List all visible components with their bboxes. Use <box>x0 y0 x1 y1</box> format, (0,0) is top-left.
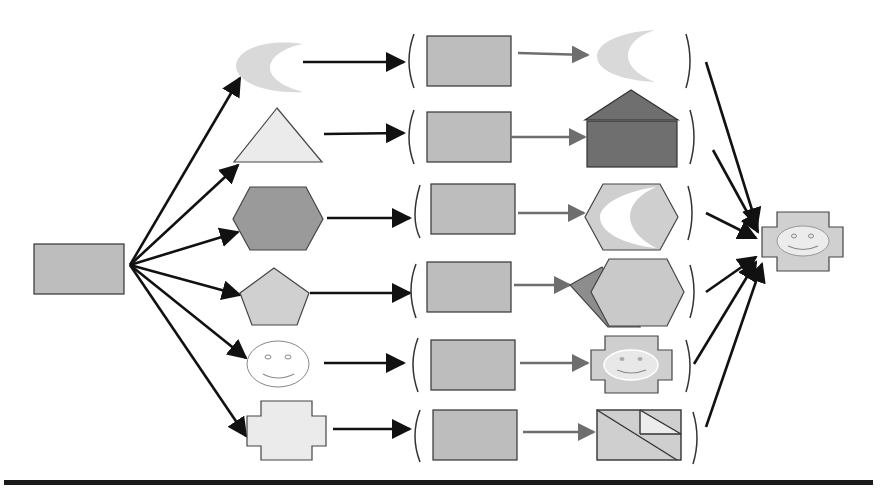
row-triangle <box>234 90 694 167</box>
hexagon-input <box>233 187 323 250</box>
left-bracket <box>409 34 414 88</box>
middle-rectangle <box>427 112 511 162</box>
left-bracket <box>411 264 416 318</box>
cross-smiley-eye-right <box>638 357 643 361</box>
right-bracket <box>693 412 697 464</box>
middle-rectangle <box>427 262 511 312</box>
left-bracket <box>409 110 414 164</box>
row-crescent <box>236 30 690 92</box>
cross-input <box>247 401 326 460</box>
row-smiley <box>247 336 690 393</box>
right-bracket <box>690 265 694 318</box>
right-bracket <box>690 110 694 164</box>
middle-rectangle <box>431 340 515 390</box>
right-bracket <box>686 340 690 392</box>
output-shape <box>762 212 843 271</box>
diagram-canvas <box>0 0 882 499</box>
house-body <box>587 121 677 167</box>
row-hexagon <box>233 184 692 250</box>
cross-smiley-face <box>604 350 658 380</box>
crescent-result <box>597 30 655 82</box>
house-roof <box>585 90 678 120</box>
row-cross <box>247 401 697 464</box>
bottom-rule <box>4 480 873 485</box>
fan-out-arrows <box>130 78 246 436</box>
front-hexagon <box>591 259 684 326</box>
left-bracket <box>413 338 418 392</box>
right-bracket <box>686 34 690 88</box>
middle-rectangle <box>427 36 511 86</box>
left-bracket <box>415 410 420 462</box>
middle-rectangle <box>431 184 515 234</box>
right-bracket <box>688 186 692 240</box>
row-pentagon <box>240 259 694 327</box>
fan-in-arrows <box>694 62 762 427</box>
pentagon-input <box>240 268 309 325</box>
arrow-triangle-to-bracket <box>324 133 404 134</box>
left-bracket <box>415 185 420 238</box>
arrow-to-smiley <box>130 265 246 358</box>
source-rectangle <box>34 244 124 294</box>
arrow-to-triangle <box>130 165 238 265</box>
middle-rectangle <box>433 410 517 460</box>
output-smiley-face <box>777 226 829 256</box>
cross-smiley-eye-left <box>620 357 625 361</box>
arrow-from-row1 <box>706 62 757 226</box>
crescent-input <box>236 43 303 93</box>
diagram-svg <box>0 0 882 499</box>
gray-arrow <box>518 53 588 55</box>
smiley-face-input <box>247 341 309 387</box>
triangle-input <box>234 108 322 162</box>
arrow-from-row6 <box>706 264 762 427</box>
